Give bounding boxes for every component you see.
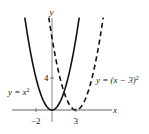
x-tick-label-3: 3 (74, 116, 79, 126)
y-axis-label: y (49, 7, 54, 17)
function-graph: y x −2 3 4 y = x2 y = (x − 3)2 (0, 0, 149, 134)
shifted-parabola-curve (49, 18, 103, 110)
x-axis-label: x (112, 105, 117, 115)
parabola-label: y = x2 (7, 87, 30, 98)
y-tick-label-4: 4 (44, 73, 49, 83)
shifted-parabola-label: y = (x − 3)2 (95, 75, 139, 86)
x-tick-label-neg2: −2 (31, 116, 41, 126)
